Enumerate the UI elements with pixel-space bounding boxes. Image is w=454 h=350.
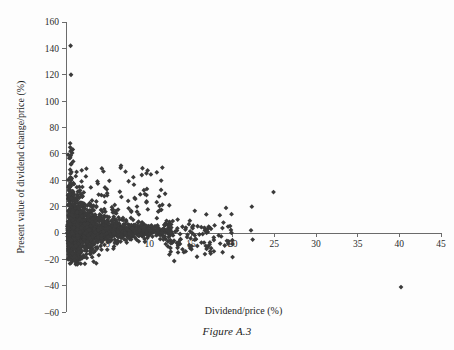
y-tick-label: 0 (54, 228, 59, 238)
data-point (212, 223, 217, 228)
data-point (157, 194, 162, 199)
data-point (131, 175, 136, 180)
data-point (126, 199, 131, 204)
data-point (271, 190, 276, 195)
data-point (187, 222, 192, 227)
data-point (175, 217, 180, 222)
data-point (154, 170, 159, 175)
data-point (195, 254, 200, 259)
data-point (154, 216, 159, 221)
data-point (180, 224, 185, 229)
data-point (218, 241, 223, 246)
y-tick-label: 100 (45, 97, 60, 107)
data-point (203, 252, 208, 257)
data-point (220, 226, 225, 231)
data-point (103, 200, 108, 205)
data-point (199, 240, 204, 245)
data-point (159, 188, 164, 193)
y-tick-label: 120 (45, 70, 60, 80)
data-point (117, 189, 122, 194)
data-point (132, 182, 137, 187)
data-point (204, 212, 209, 217)
data-point (249, 204, 254, 209)
data-point (224, 206, 229, 211)
data-point (167, 203, 172, 208)
data-point (250, 237, 255, 242)
x-tick-label: 30 (311, 239, 321, 249)
data-point (220, 250, 225, 255)
data-point (99, 247, 104, 252)
x-tick-label: 35 (353, 239, 363, 249)
data-point (211, 238, 216, 243)
y-tick-label: 40 (50, 176, 60, 186)
data-point (140, 166, 145, 171)
data-point (96, 253, 101, 258)
data-point (79, 179, 84, 184)
x-tick-label: 45 (436, 239, 446, 249)
data-point (163, 191, 168, 196)
data-point (84, 166, 89, 171)
y-tick-label: –40 (44, 281, 60, 291)
data-point (139, 173, 144, 178)
data-point (230, 255, 235, 260)
data-point (68, 43, 73, 48)
y-tick-label: 20 (50, 202, 60, 212)
axes-group: –60–40–200204060801001201401605101520253… (44, 17, 446, 317)
data-point (160, 165, 165, 170)
y-tick-label: 80 (50, 123, 60, 133)
data-point (195, 224, 200, 229)
data-point (126, 179, 131, 184)
data-point (172, 259, 177, 264)
data-point (88, 185, 93, 190)
data-point (217, 213, 222, 218)
data-point (148, 172, 153, 177)
figure-container: –60–40–200204060801001201401605101520253… (0, 0, 454, 350)
data-points-group (65, 43, 403, 289)
y-axis-title: Present value of dividend change/price (… (15, 81, 27, 254)
y-tick-label: –60 (44, 308, 60, 318)
data-point (221, 220, 226, 225)
data-point (176, 250, 181, 255)
data-point (178, 232, 183, 237)
x-tick-label: 25 (270, 239, 280, 249)
data-point (74, 170, 79, 175)
data-point (159, 178, 164, 183)
y-tick-label: 140 (45, 44, 60, 54)
data-point (192, 208, 197, 213)
data-point (399, 285, 404, 290)
data-point (187, 218, 192, 223)
data-point (229, 212, 234, 217)
x-axis-title: Dividend/price (%) (205, 305, 282, 317)
y-tick-label: 60 (50, 149, 60, 159)
data-point (249, 228, 254, 233)
data-point (107, 178, 112, 183)
y-tick-label: 160 (45, 17, 60, 27)
data-point (138, 192, 143, 197)
data-point (73, 174, 78, 179)
figure-caption: Figure A.3 (0, 325, 454, 337)
data-point (83, 261, 88, 266)
data-point (135, 204, 140, 209)
data-point (154, 200, 159, 205)
data-point (69, 72, 74, 77)
data-point (94, 199, 99, 204)
x-tick-label: 40 (395, 239, 405, 249)
data-point (79, 168, 84, 173)
scatter-plot: –60–40–200204060801001201401605101520253… (0, 0, 454, 350)
y-tick-label: –20 (44, 255, 60, 265)
data-point (145, 207, 150, 212)
data-point (83, 174, 88, 179)
data-point (119, 195, 124, 200)
data-point (123, 169, 128, 174)
x-tick-label: 10 (145, 239, 155, 249)
